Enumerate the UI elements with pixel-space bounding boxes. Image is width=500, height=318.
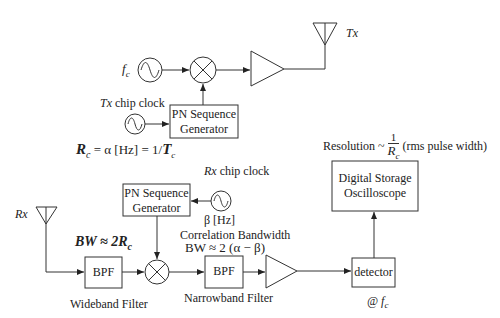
- rx-antenna-icon: [36, 207, 57, 224]
- tx-chip-clock-label: Tx chip clock: [100, 97, 165, 109]
- narrowband-filter-caption: Narrowband Filter: [184, 292, 273, 304]
- tx-pn-generator-label: PN SequenceGenerator: [170, 107, 238, 137]
- tx-chip-clock-oscillator-icon: [125, 114, 145, 134]
- narrowband-bpf-label: BPF: [205, 264, 243, 279]
- chip-rate-equation: Rc = α [Hz] = 1/Tc: [76, 142, 175, 160]
- tx-antenna-icon: [313, 23, 337, 45]
- tx-mixer-icon: [190, 57, 216, 83]
- rx-chip-clock-label: Rx chip clock: [204, 165, 269, 177]
- detector-label: detector: [352, 265, 395, 280]
- rx-mixer-icon: [145, 260, 169, 284]
- rx-antenna-label: Rx: [15, 208, 28, 220]
- carrier-freq-label: fc: [122, 62, 130, 79]
- wideband-bpf-label: BPF: [85, 265, 122, 280]
- wideband-bw-label: BW ≈ 2Rc: [75, 235, 132, 252]
- rx-amplifier-icon: [266, 255, 297, 288]
- correlation-bw-eq: BW ≈ 2 (α − β): [185, 241, 265, 254]
- tx-amplifier-icon: [251, 51, 284, 86]
- resolution-label: Resolution ~ 1 Rc (rms pulse width): [323, 132, 487, 161]
- wideband-filter-caption: Wideband Filter: [70, 298, 148, 310]
- tx-antenna-label: Tx: [346, 27, 358, 39]
- carrier-oscillator-icon: [138, 58, 162, 82]
- rx-chip-clock-freq: β [Hz]: [204, 214, 235, 226]
- rx-chip-clock-oscillator-icon: [211, 191, 231, 211]
- oscilloscope-label: Digital StorageOscilloscope: [332, 171, 418, 201]
- rx-pn-generator-label: PN SequenceGenerator: [123, 186, 190, 216]
- detector-freq-label: @ fc: [367, 295, 388, 310]
